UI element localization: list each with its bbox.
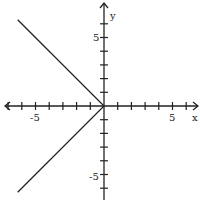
y-tick-label-5: 5	[93, 32, 99, 43]
x-tick-label-neg5: -5	[30, 112, 40, 123]
y-axis-label: y	[109, 10, 116, 21]
x-axis-label: x	[192, 112, 198, 123]
y-tick-label-neg5: -5	[89, 171, 99, 182]
coordinate-plane: y x -5 5 5 -5	[0, 0, 200, 201]
x-tick-label-5: 5	[169, 112, 175, 123]
